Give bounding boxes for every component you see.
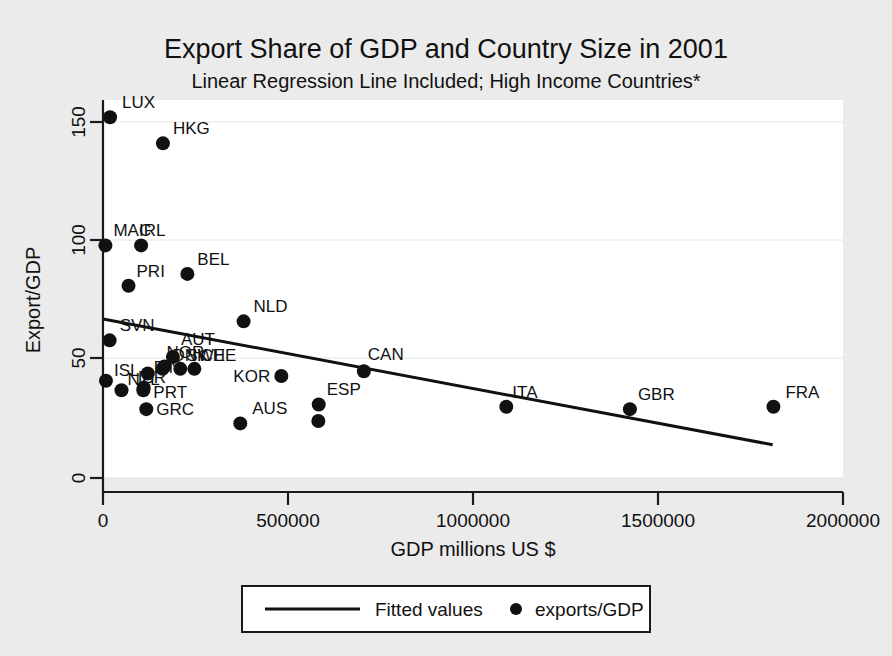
point-label-irl: IRL bbox=[139, 221, 165, 240]
y-tick-label-0: 0 bbox=[68, 473, 89, 484]
chart-subtitle: Linear Regression Line Included; High In… bbox=[191, 70, 700, 92]
legend: Fitted values exports/GDP bbox=[242, 586, 650, 632]
data-point bbox=[187, 362, 201, 376]
y-tick-label-50: 50 bbox=[68, 347, 89, 368]
data-point bbox=[136, 383, 150, 397]
point-label-pri: PRI bbox=[137, 262, 165, 281]
point-label-gbr: GBR bbox=[638, 385, 675, 404]
x-axis-title: GDP millions US $ bbox=[390, 538, 555, 560]
data-point bbox=[233, 416, 247, 430]
point-label-ita: ITA bbox=[512, 383, 538, 402]
point-label-hkg: HKG bbox=[173, 119, 210, 138]
x-tick-label-2000000: 2000000 bbox=[806, 510, 880, 531]
x-tick-label-0: 0 bbox=[98, 510, 109, 531]
data-point bbox=[115, 383, 129, 397]
point-label-lux: LUX bbox=[122, 93, 155, 112]
data-point bbox=[312, 397, 326, 411]
chart-title: Export Share of GDP and Country Size in … bbox=[164, 34, 728, 64]
data-point bbox=[99, 374, 113, 388]
data-point bbox=[180, 267, 194, 281]
legend-label-exports-gdp: exports/GDP bbox=[535, 599, 644, 620]
point-label-kor: KOR bbox=[233, 367, 270, 386]
data-point bbox=[237, 314, 251, 328]
legend-label-fitted-values: Fitted values bbox=[375, 599, 483, 620]
data-point bbox=[139, 402, 153, 416]
data-point bbox=[311, 414, 325, 428]
plot-area-background bbox=[103, 100, 843, 478]
x-tick-label-1500000: 1500000 bbox=[621, 510, 695, 531]
y-tick-label-100: 100 bbox=[68, 224, 89, 256]
point-label-fra: FRA bbox=[785, 383, 820, 402]
x-tick-label-1000000: 1000000 bbox=[436, 510, 510, 531]
point-label-svn: SVN bbox=[120, 316, 155, 335]
data-point bbox=[122, 279, 136, 293]
scatter-chart: Export Share of GDP and Country Size in … bbox=[0, 0, 892, 656]
x-tick-label-500000: 500000 bbox=[256, 510, 319, 531]
data-point bbox=[274, 369, 288, 383]
y-axis-title: Export/GDP bbox=[22, 247, 44, 354]
data-point bbox=[98, 238, 112, 252]
data-point bbox=[134, 238, 148, 252]
point-label-che: CHE bbox=[200, 346, 236, 365]
y-tick-label-150: 150 bbox=[68, 106, 89, 138]
chart-figure: Export Share of GDP and Country Size in … bbox=[0, 0, 892, 656]
data-point bbox=[766, 400, 780, 414]
data-point bbox=[623, 402, 637, 416]
point-label-grc: GRC bbox=[156, 400, 194, 419]
point-label-aus: AUS bbox=[252, 399, 287, 418]
point-label-can: CAN bbox=[368, 345, 404, 364]
point-label-esp: ESP bbox=[327, 380, 361, 399]
data-point bbox=[103, 333, 117, 347]
legend-dot-swatch bbox=[510, 603, 522, 615]
point-label-bel: BEL bbox=[197, 250, 229, 269]
point-label-nld: NLD bbox=[254, 297, 288, 316]
data-point bbox=[103, 110, 117, 124]
data-point bbox=[499, 400, 513, 414]
data-point bbox=[357, 364, 371, 378]
data-point bbox=[156, 136, 170, 150]
